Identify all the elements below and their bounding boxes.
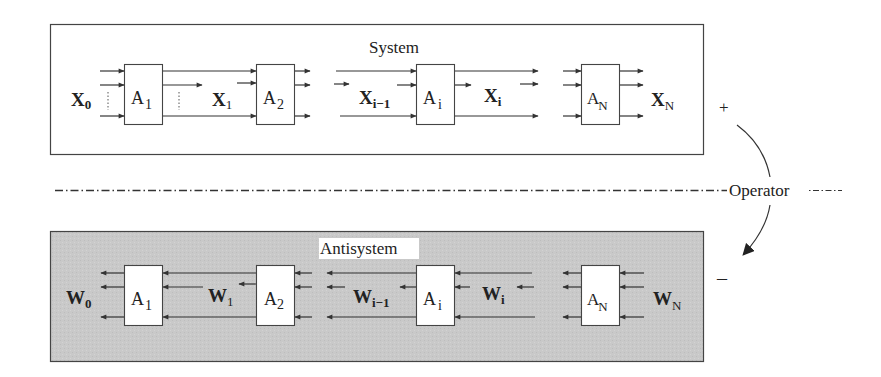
system-block-an: AN [582, 65, 620, 125]
system-block-a2: A2 [257, 65, 295, 125]
operator-arc-top [737, 125, 770, 177]
system-block-a1: A1 [125, 65, 163, 125]
operator-divider: Operator [55, 181, 842, 200]
system-title: System [369, 38, 419, 57]
system-block-ai: Ai [417, 65, 455, 125]
antisystem-block-an: AN [582, 266, 620, 326]
antisystem-block-a1: A1 [125, 266, 163, 326]
antisystem-block-a2: A2 [257, 266, 295, 326]
antisystem-block-ai: Ai [417, 266, 455, 326]
antisystem-panel: Antisystem [51, 232, 704, 362]
system-antisystem-diagram: System [0, 0, 881, 377]
plus-sign: + [719, 98, 729, 117]
antisystem-title: Antisystem [320, 239, 397, 258]
system-panel: System [51, 25, 704, 155]
minus-sign: – [716, 267, 728, 289]
operator-label: Operator [729, 181, 790, 200]
operator-arrow-icon [744, 205, 770, 254]
